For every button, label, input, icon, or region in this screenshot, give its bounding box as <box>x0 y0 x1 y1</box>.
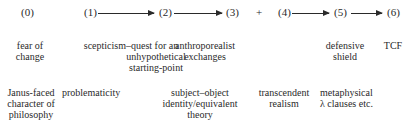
label-defensive-shield: defensive shield <box>320 40 370 62</box>
arrow-1-to-2 <box>98 13 154 14</box>
label-metaphysical-lambda-clauses: metaphysical λ clauses etc. <box>320 87 390 109</box>
node-5: (5) <box>334 6 347 18</box>
label-fear-of-change: fear of change <box>12 40 48 62</box>
node-6: (6) <box>387 6 400 18</box>
node-2: (2) <box>159 6 172 18</box>
plus-sign: + <box>256 6 262 18</box>
arrow-2-to-3 <box>174 13 222 14</box>
label-transcendent-realism: transcendent realism <box>256 87 312 109</box>
label-problematicity: problematicity <box>62 87 118 98</box>
node-1: (1) <box>84 6 97 18</box>
node-3: (3) <box>226 6 239 18</box>
label-tcf: TCF <box>381 40 405 51</box>
label-anthroporealist-exchanges: anthroporealist exchanges <box>164 40 246 62</box>
label-subject-object-identity: subject–object identity/equivalent theor… <box>160 87 240 120</box>
node-4: (4) <box>278 6 291 18</box>
arrow-4-to-5 <box>292 13 329 14</box>
node-0: (0) <box>21 6 34 18</box>
arrow-5-to-6 <box>351 13 382 14</box>
label-janus-faced: Janus-faced character of philosophy <box>6 87 56 120</box>
